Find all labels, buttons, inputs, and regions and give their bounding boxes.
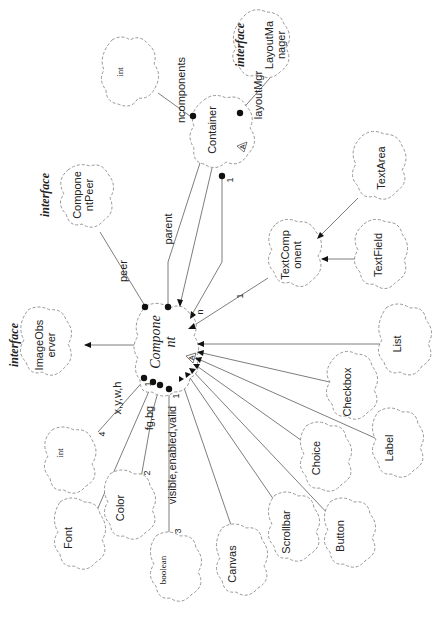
role-parent: parent xyxy=(162,213,174,244)
stereotype-imageobserver: interface xyxy=(8,323,20,367)
multiplicity-textcomponent-1: 1 xyxy=(234,293,246,298)
edge-textarea-textcomponent xyxy=(318,198,358,238)
class-name-line2: onent xyxy=(291,241,303,269)
dot-xywh xyxy=(141,375,147,381)
class-name-container: Container xyxy=(206,106,218,154)
class-name-choice: Choice xyxy=(310,441,322,475)
role-xywh: x,y,w,h xyxy=(111,382,123,415)
multiplicity-vev-1: 1 xyxy=(170,393,182,398)
abstract-letter-container: A xyxy=(237,145,249,150)
class-int-top[interactable] xyxy=(101,37,158,106)
stereotype-componentpeer: interface xyxy=(39,173,51,217)
edge-container-component-n xyxy=(190,176,222,318)
class-container[interactable] xyxy=(190,95,255,167)
class-name-imageobserver: ImageObserver xyxy=(33,320,57,371)
edge-textcomponent-component xyxy=(190,278,268,328)
class-name-canvas: Canvas xyxy=(226,545,238,582)
class-color[interactable] xyxy=(104,470,155,539)
class-name-textarea: TextArea xyxy=(375,146,387,189)
class-canvas[interactable] xyxy=(216,524,267,595)
class-name-line1: Compone xyxy=(148,315,163,369)
class-name-list: List xyxy=(391,335,403,352)
class-name-line2: nt xyxy=(163,337,178,348)
class-name-line1: ImageObs xyxy=(33,320,45,371)
role-visible-enabled-valid: visible,enabled,valid xyxy=(166,406,178,504)
edge-fgbg xyxy=(141,385,160,478)
stereotype-layoutmanager: interface xyxy=(234,23,246,67)
class-name-boolean: boolean xyxy=(157,556,169,585)
edge-canvas-component xyxy=(180,376,232,528)
class-button[interactable] xyxy=(324,498,375,567)
edge-container-component-inherit xyxy=(180,168,212,305)
class-name-line2: ntPeer xyxy=(83,179,95,211)
dot-vev xyxy=(166,386,172,392)
class-name-line2: nager xyxy=(275,31,287,59)
arrowhead-textfield xyxy=(321,256,328,262)
class-scrollbar[interactable] xyxy=(268,492,319,561)
class-name-label: Label xyxy=(383,435,395,462)
multiplicity-xywh-1: 1 xyxy=(142,381,154,386)
class-label[interactable] xyxy=(372,408,423,477)
class-name-component: Component xyxy=(148,315,178,369)
role-layoutmgr: layoutMgr xyxy=(252,71,264,119)
multiplicity-n: n xyxy=(194,309,206,314)
class-name-font: Font xyxy=(62,527,74,549)
multiplicity-3: 3 xyxy=(172,528,184,533)
multiplicity-4: 4 xyxy=(96,431,108,436)
class-name-textfield: TextField xyxy=(372,233,384,277)
multiplicity-2: 2 xyxy=(141,470,153,475)
abstract-letter-component: A xyxy=(186,356,198,361)
class-list[interactable] xyxy=(378,304,431,375)
class-name-layoutmanager: LayoutManager xyxy=(263,21,287,69)
class-name-int-bottom: int xyxy=(54,448,66,458)
edge-scrollbar-component xyxy=(186,372,274,500)
dot-layoutmgr xyxy=(237,110,243,116)
role-fgbg: fg,bg xyxy=(143,406,155,430)
class-name-checkbox: Checkbox xyxy=(341,368,353,417)
role-ncomponents: ncomponents xyxy=(175,57,187,123)
class-name-textcomponent: TextComponent xyxy=(279,230,303,280)
arrowhead-imageobserver xyxy=(84,342,91,348)
dot-peer xyxy=(142,304,148,310)
class-int-bottom[interactable] xyxy=(44,427,96,493)
class-name-line2: erver xyxy=(45,332,57,357)
class-name-scrollbar: Scrollbar xyxy=(280,510,292,553)
arrowhead-container-component xyxy=(177,299,183,307)
dot-ncomponents xyxy=(190,113,196,119)
role-peer: peer xyxy=(117,260,129,282)
class-choice[interactable] xyxy=(300,422,351,491)
class-name-line1: TextComp xyxy=(279,230,291,280)
multiplicity-container-1: 1 xyxy=(224,177,236,182)
class-name-line1: LayoutMa xyxy=(263,21,275,69)
class-name-button: Button xyxy=(334,520,346,552)
class-name-color: Color xyxy=(114,495,126,521)
edge-checkbox-component xyxy=(198,352,334,383)
dot-parent xyxy=(165,304,171,310)
class-name-componentpeer: ComponentPeer xyxy=(71,171,95,219)
dot-fgbg xyxy=(157,382,163,388)
class-name-int-top: int xyxy=(114,67,126,77)
class-name-line1: Compone xyxy=(71,171,83,219)
